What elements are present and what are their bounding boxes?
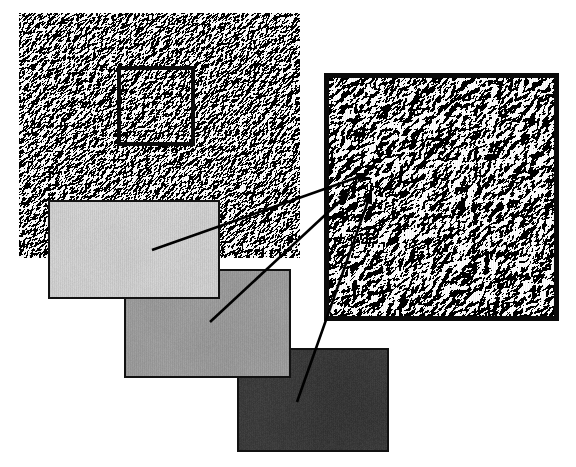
patch-light-surface <box>50 202 218 297</box>
patch-light <box>48 200 220 299</box>
region-of-interest <box>117 66 195 146</box>
detail-texture <box>324 73 559 321</box>
figure-canvas <box>0 0 576 467</box>
detail-texture-surface <box>329 78 554 316</box>
